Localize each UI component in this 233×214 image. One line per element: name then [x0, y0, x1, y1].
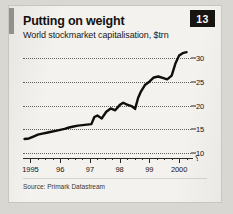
x-axis-major-tick — [120, 158, 121, 163]
page-title: Putting on weight — [23, 14, 124, 28]
divider — [23, 178, 207, 179]
x-axis-minor-tick — [164, 158, 165, 160]
zero-break-icon: ⸮ — [195, 155, 199, 163]
x-axis-major-tick — [90, 158, 91, 163]
y-axis-labels: 1015202530 — [193, 46, 217, 158]
x-axis-label: 2000 — [171, 165, 187, 174]
x-axis: 1995969798992000 ⸮ — [23, 158, 207, 178]
y-axis-label: 30 — [196, 53, 204, 62]
x-axis-minor-tick — [45, 158, 46, 160]
x-axis-minor-tick — [38, 158, 39, 160]
x-axis-label: 1995 — [22, 165, 38, 174]
x-axis-major-tick — [179, 158, 180, 163]
x-axis-minor-tick — [135, 158, 136, 160]
x-axis-label: 98 — [116, 165, 124, 174]
x-axis-minor-tick — [112, 158, 113, 160]
x-axis-minor-tick — [172, 158, 173, 160]
x-axis-major-tick — [149, 158, 150, 163]
screenshot-root: Putting on weight World stockmarket capi… — [0, 0, 233, 214]
x-axis-label: 96 — [56, 165, 64, 174]
y-axis-label: 15 — [196, 125, 204, 134]
x-axis-major-tick — [60, 158, 61, 163]
x-axis-label: 97 — [86, 165, 94, 174]
x-axis-line — [23, 158, 193, 159]
x-axis-minor-tick — [68, 158, 69, 160]
series-line — [24, 52, 186, 139]
x-axis-minor-tick — [82, 158, 83, 160]
x-axis-label: 99 — [145, 165, 153, 174]
x-axis-minor-tick — [157, 158, 158, 160]
x-axis-minor-tick — [75, 158, 76, 160]
x-axis-minor-tick — [142, 158, 143, 160]
data-line — [23, 46, 191, 158]
source-note: Source: Primark Datastream — [23, 183, 105, 190]
y-axis-label: 20 — [196, 101, 204, 110]
chart-subtitle: World stockmarket capitalisation, $trn — [23, 30, 169, 40]
x-axis-minor-tick — [187, 158, 188, 160]
plot-area: 1015202530 — [23, 46, 207, 158]
y-axis-label: 25 — [196, 77, 204, 86]
x-axis-minor-tick — [105, 158, 106, 160]
chart-number-badge: 13 — [190, 10, 215, 27]
x-axis-major-tick — [30, 158, 31, 163]
chart-card: Putting on weight World stockmarket capi… — [9, 6, 221, 202]
x-axis-minor-tick — [97, 158, 98, 160]
x-axis-minor-tick — [53, 158, 54, 160]
accent-bar — [9, 8, 14, 34]
x-axis-minor-tick — [127, 158, 128, 160]
